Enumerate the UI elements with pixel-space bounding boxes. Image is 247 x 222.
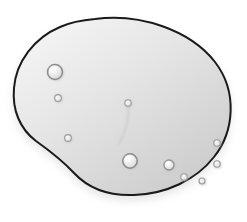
pit-center-rim	[125, 100, 131, 106]
pit-top-left-large-highlight	[50, 67, 56, 73]
pit-lower-left-rim	[65, 135, 72, 142]
bean-shape-illustration	[0, 0, 247, 222]
bean-body	[14, 18, 231, 195]
pit-bottom-center-large-highlight	[125, 156, 131, 162]
pit-bottom-right-small-a-rim	[181, 174, 187, 180]
pit-bottom-center-large	[123, 154, 139, 170]
pit-upper-left-small-rim	[55, 95, 62, 102]
pit-top-left-large	[48, 65, 65, 82]
pit-bottom-right-small-b	[199, 178, 207, 186]
pit-bottom-right-medium-highlight	[166, 161, 170, 165]
illustration-canvas: Grayscale drawing of a bean or kidney sh…	[0, 0, 247, 222]
pit-bottom-right-small-b-rim	[199, 178, 205, 184]
pit-right-edge-lower-rim	[214, 161, 220, 167]
pit-right-edge-upper-rim	[214, 140, 220, 146]
pit-right-edge-lower	[214, 161, 222, 169]
